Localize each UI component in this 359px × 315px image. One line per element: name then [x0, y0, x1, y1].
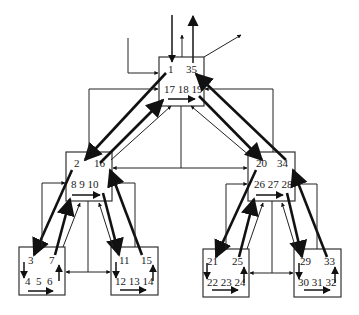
leaf-lr-label-top-right: 15 — [141, 254, 153, 266]
right-bracket-to-root — [205, 89, 273, 152]
leaf-lr-label-top-left: 11 — [119, 254, 130, 266]
root-node: 1 35 17 18 19 — [159, 57, 204, 106]
rl-to-mid-right-up — [239, 199, 254, 257]
rl-to-mid-right-thin-up — [247, 203, 263, 249]
output-arrow-diagonal — [204, 35, 241, 57]
root-label-top-right: 35 — [186, 63, 198, 75]
leaf-rl-label-bottom: 22 23 24 — [207, 276, 246, 288]
mid-left-label-bottom: 8 9 10 — [71, 178, 99, 190]
leaf-rl-node: 21 25 22 23 24 — [203, 249, 249, 297]
leaf-ll-label-top-left: 3 — [28, 254, 34, 266]
input-arrow-left — [128, 38, 158, 73]
mid-left-to-root-thin-up — [111, 106, 171, 160]
mid-left-label-top-left: 2 — [74, 157, 80, 169]
leaf-ll-label-top-right: 7 — [49, 254, 55, 266]
leaf-ll-label-bottom: 4 5 6 — [25, 275, 53, 287]
leaf-rr-label-bottom: 30 31 32 — [298, 276, 337, 288]
leaf-lr-label-bottom: 12 13 14 — [115, 275, 154, 287]
mid-right-label-bottom: 26 27 28 — [254, 178, 293, 190]
mid-right-to-rr-down — [287, 193, 302, 257]
root-label-top-left: 1 — [168, 63, 174, 75]
mid-right-to-root-thin-up — [191, 106, 250, 156]
root-io-arrows — [128, 15, 241, 73]
ll-to-mid-left-thin-up — [63, 203, 80, 247]
leaf-rl-label-top-right: 25 — [232, 255, 244, 267]
mid-right-label-top-right: 34 — [277, 157, 289, 169]
lr-bracket-up — [113, 183, 135, 247]
tree-flow-diagram: 1 35 17 18 19 2 16 8 9 10 20 34 26 27 28… — [0, 0, 359, 315]
root-label-bottom: 17 18 19 — [164, 83, 203, 95]
leaf-ll-box — [19, 247, 65, 295]
leaf-ll-node: 3 7 4 5 6 — [19, 247, 65, 295]
